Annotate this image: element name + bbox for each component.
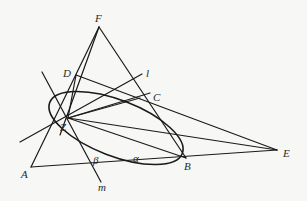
line-ZB: [68, 118, 186, 158]
geometry-diagram: F D C B E A Z l m α β: [0, 0, 307, 201]
label-l: l: [146, 67, 149, 79]
line-FB: [99, 27, 186, 158]
label-E: E: [282, 147, 290, 159]
label-D: D: [62, 67, 71, 79]
label-beta: β: [92, 154, 99, 166]
line-DE: [76, 75, 277, 150]
line-Z-ellipse-top: [68, 98, 140, 118]
label-alpha: α: [133, 152, 139, 164]
line-l: [20, 74, 142, 142]
label-Z: Z: [60, 121, 67, 133]
label-m: m: [98, 181, 106, 193]
line-ZE: [68, 118, 277, 150]
label-A: A: [20, 168, 28, 180]
label-C: C: [153, 91, 161, 103]
label-B: B: [184, 160, 191, 172]
label-F: F: [94, 12, 102, 24]
